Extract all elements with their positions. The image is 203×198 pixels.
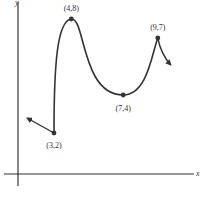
y-axis-label: y [14,0,19,7]
point-label: (9,7) [150,23,166,32]
point-label: (3,2) [46,141,62,150]
graph: y x (3,2)(4,8)(7,4)(9,7) [0,0,203,198]
left-end-arrow [27,118,54,133]
data-point [121,93,126,98]
data-point [155,36,160,41]
x-axis-label: x [195,169,200,178]
curve [54,19,158,133]
point-label: (4,8) [64,4,80,13]
data-point [69,17,74,22]
data-point [52,131,57,136]
right-end-arrow [158,38,171,65]
point-label: (7,4) [116,104,132,113]
